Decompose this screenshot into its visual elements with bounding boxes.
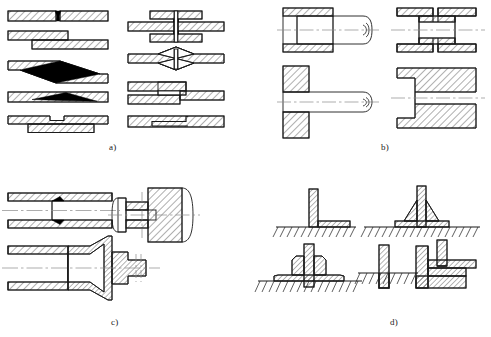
panel-d-group: d) (252, 178, 491, 337)
offset-lap-joint-stepped (128, 82, 224, 104)
tube-coupling-sleeve-joint (391, 8, 485, 52)
butt-joint-square-edge (8, 11, 108, 21)
tee-joint-double-fillet-raised (255, 244, 362, 292)
panel-c-drawing (0, 178, 250, 337)
panel-d-drawing (252, 178, 491, 337)
scarf-joint-thin-taper (8, 92, 108, 102)
shaft-through-plate-joint (277, 66, 379, 138)
inset-stepped-butt-joint (128, 116, 224, 127)
shaft-in-blind-bore-joint (391, 68, 485, 128)
tube-butt-joint-internal-sleeve (2, 193, 120, 228)
tee-joint-double-fillet-on-pad (361, 186, 480, 237)
corner-fillet-joint (273, 189, 356, 237)
double-taper-diamond-butt-joint (128, 47, 224, 70)
corner-lap-joint-stepped (416, 240, 476, 288)
lap-joint-offset-plates (8, 31, 108, 49)
drawing-sheet: a) (0, 0, 491, 337)
double-strap-butt-joint (128, 11, 224, 42)
panel-d-caption: d) (390, 317, 398, 327)
panel-c-caption: c) (111, 317, 118, 327)
stepped-lap-joint-strap (8, 116, 108, 133)
panel-c-group: c) (0, 178, 250, 337)
panel-a-caption: a) (109, 142, 116, 152)
tube-to-solid-plug-joint (108, 188, 200, 242)
tube-in-sleeve-socket-joint (277, 8, 379, 52)
panel-b-group: b) (275, 0, 491, 145)
scarf-joint-long-taper (8, 61, 108, 83)
panel-a-group: a) (0, 0, 250, 145)
panel-b-drawing (275, 0, 491, 145)
panel-a-drawing (0, 0, 250, 145)
panel-b-caption: b) (381, 142, 389, 152)
tube-to-flared-nozzle-joint (2, 236, 160, 300)
plate-in-slot-joint (355, 245, 418, 288)
